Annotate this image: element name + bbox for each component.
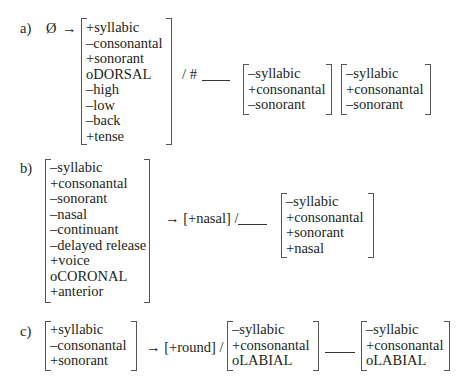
rule-b-label: b) — [20, 160, 32, 177]
rule-a-env-matrix-2: –syllabic +consonantal –sonorant — [341, 64, 431, 115]
feature: –sonorant — [248, 97, 332, 113]
feature: +sonorant — [50, 353, 137, 369]
rule-b-env-matrix: –syllabic +consonantal +sonorant +nasal — [281, 193, 374, 258]
feature: –sonorant — [50, 191, 150, 207]
rule-c-env-right-matrix: –syllabic +consonantal oLABIAL — [361, 321, 450, 371]
feature: –consonantal — [86, 36, 172, 52]
feature: +tense — [86, 129, 172, 145]
arrow-icon: → — [62, 20, 77, 37]
feature: –nasal — [50, 207, 150, 223]
rule-a-label: a) — [20, 20, 31, 37]
feature: +consonantal — [366, 338, 450, 354]
focus-blank — [202, 79, 230, 81]
feature: –syllabic — [346, 66, 431, 82]
focus-blank — [325, 351, 355, 353]
feature: +consonantal — [50, 176, 150, 192]
feature: –consonantal — [50, 338, 137, 354]
feature: –syllabic — [286, 194, 374, 210]
feature: –syllabic — [50, 160, 150, 176]
feature: –low — [86, 98, 172, 114]
feature: –back — [86, 113, 172, 129]
feature: oDORSAL — [86, 67, 172, 83]
feature: –syllabic — [248, 66, 332, 82]
feature: +consonantal — [248, 82, 332, 98]
rule-c-input-matrix: +syllabic –consonantal +sonorant — [45, 321, 137, 371]
rule-a-env-matrix-1: –syllabic +consonantal –sonorant — [243, 64, 332, 115]
feature: oLABIAL — [366, 353, 450, 369]
null-symbol: Ø — [46, 20, 56, 37]
feature: +syllabic — [50, 322, 137, 338]
rule-b-input-matrix: –syllabic +consonantal –sonorant –nasal … — [45, 159, 150, 303]
feature: –syllabic — [232, 322, 319, 338]
feature: +syllabic — [86, 20, 172, 36]
rule-c-change: → [+round] / — [146, 339, 223, 356]
feature: +consonantal — [232, 338, 319, 354]
rule-c-label: c) — [20, 323, 31, 340]
feature: +consonantal — [346, 82, 431, 98]
feature: oLABIAL — [232, 353, 319, 369]
rule-c-env-left-matrix: –syllabic +consonantal oLABIAL — [227, 321, 319, 371]
feature: +anterior — [50, 284, 150, 300]
feature: –continuant — [50, 222, 150, 238]
feature: –delayed release — [50, 238, 150, 254]
feature: +consonantal — [286, 210, 374, 226]
feature: +nasal — [286, 241, 374, 257]
focus-blank — [238, 223, 267, 225]
feature: +sonorant — [86, 51, 172, 67]
feature: –high — [86, 82, 172, 98]
feature: –sonorant — [346, 97, 431, 113]
feature: +sonorant — [286, 225, 374, 241]
feature: oCORONAL — [50, 269, 150, 285]
rule-a-target-matrix: +syllabic –consonantal +sonorant oDORSAL… — [81, 18, 172, 145]
feature: –syllabic — [366, 322, 450, 338]
rule-a-environment-slash: / # — [182, 66, 197, 83]
feature: +voice — [50, 253, 150, 269]
rule-b-change: → [+nasal] / — [165, 210, 238, 227]
